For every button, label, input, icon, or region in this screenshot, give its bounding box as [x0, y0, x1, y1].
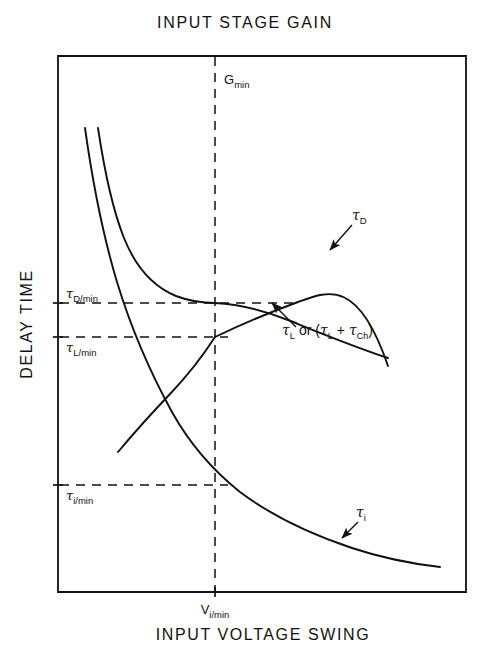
label-curve-tau-d: τD: [352, 207, 367, 226]
x-axis-label: INPUT VOLTAGE SWING: [156, 626, 370, 643]
label-tau-d-min: τD/min: [66, 286, 98, 304]
leader-tau-d: [330, 225, 352, 250]
label-g-min: Gmin: [224, 72, 249, 90]
label-v-i-min: Vi/min: [201, 602, 230, 620]
figure-root: INPUT STAGE GAIN DELAY TIME INPUT VOLTAG…: [0, 0, 490, 651]
y-axis-label: DELAY TIME: [18, 269, 35, 378]
label-curve-tau-i: τi: [356, 504, 366, 523]
label-tau-i-min: τi/min: [66, 488, 93, 506]
curve-tau-l: [118, 294, 388, 452]
leader-tau-i: [342, 522, 358, 538]
label-curve-tau-l: τL or (τL + τCh): [282, 322, 373, 341]
delay-time-chart: INPUT STAGE GAIN DELAY TIME INPUT VOLTAG…: [0, 0, 490, 651]
label-tau-l-min: τL/min: [66, 340, 96, 358]
curve-tau-i: [85, 128, 440, 567]
chart-title: INPUT STAGE GAIN: [157, 14, 333, 31]
plot-frame: [58, 56, 466, 592]
